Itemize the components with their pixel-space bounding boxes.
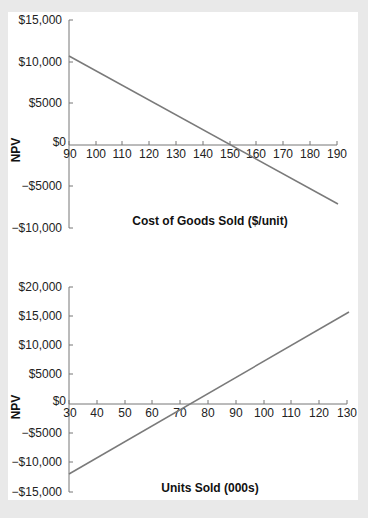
x-tick-label: 130 xyxy=(166,147,186,161)
y-tick-label: $20,000 xyxy=(19,280,63,294)
x-tick-label: 40 xyxy=(90,406,104,420)
x-tick-label: 170 xyxy=(273,147,293,161)
y-tick-label: −$10,000 xyxy=(12,455,63,469)
x-axis-title: Cost of Goods Sold ($/unit) xyxy=(132,214,287,228)
x-tick-label: 190 xyxy=(327,147,347,161)
x-tick-label: 60 xyxy=(145,406,159,420)
y-tick-label: $10,000 xyxy=(19,338,63,352)
x-tick-label: 140 xyxy=(193,147,213,161)
charts-svg: $15,000 $10,000 $5000 $0 −$5000 −$10,000… xyxy=(0,0,368,518)
x-tick-label: 50 xyxy=(118,406,132,420)
y-tick-label: $15,000 xyxy=(19,13,63,27)
npv-line xyxy=(69,312,349,474)
y-tick-label: $5000 xyxy=(29,367,63,381)
y-axis-title: NPV xyxy=(9,138,23,163)
x-tick-label: 30 xyxy=(63,406,77,420)
x-tick-label: 120 xyxy=(309,406,329,420)
x-tick-label: 100 xyxy=(86,147,106,161)
x-tick-label: 90 xyxy=(229,406,243,420)
y-tick-label: −$10,000 xyxy=(12,221,63,235)
x-tick-label: 120 xyxy=(139,147,159,161)
npv-line xyxy=(69,56,338,204)
y-tick-label: −$15,000 xyxy=(12,485,63,499)
y-tick-label: $5000 xyxy=(29,96,63,110)
x-tick-label: 110 xyxy=(112,147,131,161)
x-axis-title: Units Sold (000s) xyxy=(161,481,258,495)
x-tick-label: 180 xyxy=(300,147,320,161)
chart-units: $20,000 $15,000 $10,000 $5000 $0 −$5000 … xyxy=(9,280,357,499)
x-tick-label: 90 xyxy=(63,147,77,161)
y-tick-label: $10,000 xyxy=(19,55,63,69)
chart-cogs: $15,000 $10,000 $5000 $0 −$5000 −$10,000… xyxy=(9,13,347,235)
x-tick-label: 80 xyxy=(201,406,215,420)
y-axis-title: NPV xyxy=(9,395,23,420)
x-tick-label: 100 xyxy=(254,406,274,420)
x-tick-label: 130 xyxy=(337,406,357,420)
y-tick-label: −$5000 xyxy=(22,179,63,193)
y-tick-label: −$5000 xyxy=(22,426,63,440)
y-tick-label: $15,000 xyxy=(19,309,63,323)
x-tick-label: 110 xyxy=(281,406,300,420)
